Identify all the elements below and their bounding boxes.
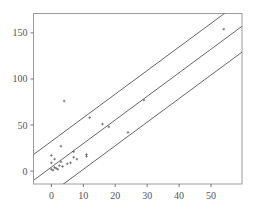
data-point	[50, 154, 53, 157]
data-point	[63, 100, 66, 103]
data-point	[108, 126, 111, 129]
x-tick-label: 0	[49, 190, 54, 201]
scatter-chart: 01020304050 050100150	[0, 0, 253, 210]
data-point	[85, 153, 88, 156]
x-tick-label: 10	[78, 190, 88, 201]
data-points	[50, 28, 225, 172]
y-axis: 050100150	[13, 27, 34, 176]
data-point	[60, 145, 63, 148]
y-tick-label: 100	[13, 73, 28, 84]
y-tick-label: 150	[13, 27, 28, 38]
data-point	[61, 165, 64, 168]
data-point	[76, 158, 79, 161]
plot-frame	[34, 14, 243, 185]
regression-lines	[34, 0, 243, 206]
x-tick-label: 20	[110, 190, 120, 201]
y-tick-label: 50	[18, 120, 28, 131]
lower-prediction-bound-line	[34, 52, 243, 206]
data-point	[101, 123, 104, 126]
x-axis: 01020304050	[49, 184, 216, 201]
x-tick-label: 40	[174, 190, 184, 201]
data-point	[69, 162, 72, 165]
data-point	[50, 162, 53, 165]
y-tick-label: 0	[23, 166, 28, 177]
data-point	[223, 28, 226, 31]
data-point	[88, 116, 91, 119]
x-tick-label: 50	[206, 190, 216, 201]
data-point	[127, 131, 130, 134]
data-point	[66, 162, 69, 165]
upper-prediction-bound-line	[34, 0, 243, 154]
data-point	[58, 164, 61, 167]
data-point	[53, 158, 56, 161]
regression-fit-line	[34, 26, 243, 180]
data-point	[72, 156, 75, 159]
x-tick-label: 30	[142, 190, 152, 201]
